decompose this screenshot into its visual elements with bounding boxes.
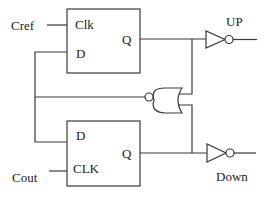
- cref-label: Cref: [11, 18, 35, 33]
- up-label: UP: [226, 14, 243, 29]
- nor-gate: [145, 88, 182, 113]
- circuit-diagram: Cref Cout UP Down Clk D Q D CLK Q: [0, 0, 266, 199]
- ff-top-d-label: D: [76, 46, 85, 61]
- down-label: Down: [216, 169, 248, 184]
- ff-bottom-q-label: Q: [122, 146, 132, 161]
- nor-bubble: [145, 93, 153, 101]
- nor-input-top-wire: [179, 39, 192, 94]
- inverter-down: [207, 144, 256, 162]
- ff-top-clk-label: Clk: [75, 17, 94, 32]
- ff-bottom-d-label: D: [76, 128, 85, 143]
- ff-top-q-label: Q: [122, 32, 132, 47]
- inverter-up: [206, 31, 257, 48]
- cout-label: Cout: [12, 170, 38, 185]
- ff-bottom-clk-label: CLK: [73, 161, 100, 176]
